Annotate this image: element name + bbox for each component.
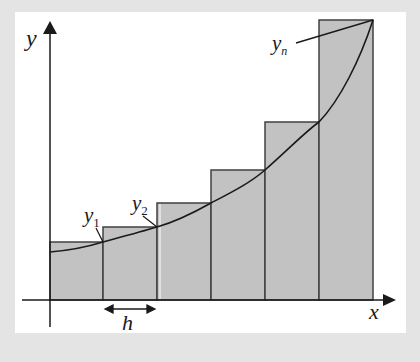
h-arrow-left-icon bbox=[105, 305, 113, 313]
label-yn: yn bbox=[270, 31, 287, 58]
label-y1: y1 bbox=[82, 203, 100, 230]
label-h: h bbox=[122, 310, 133, 335]
y-axis-arrow-icon bbox=[43, 21, 57, 34]
riemann-sum-diagram: y x y1 y2 yn h bbox=[0, 0, 420, 362]
x-axis-arrow-icon bbox=[383, 294, 396, 306]
rectangle-2 bbox=[103, 227, 157, 300]
rectangles bbox=[50, 20, 373, 300]
label-y2: y2 bbox=[130, 191, 148, 218]
rectangle-6 bbox=[319, 20, 373, 300]
x-axis-label: x bbox=[368, 299, 379, 324]
y-axis-label: y bbox=[24, 25, 37, 51]
h-arrow-right-icon bbox=[147, 305, 155, 313]
rectangle-4 bbox=[211, 170, 265, 300]
y1-leader bbox=[96, 228, 103, 242]
rectangle-5 bbox=[265, 122, 319, 300]
